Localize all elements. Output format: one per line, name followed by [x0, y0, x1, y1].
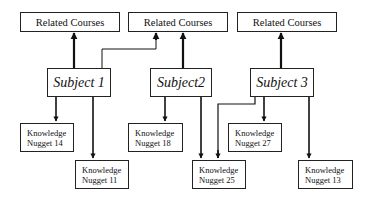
- subject-box-2: Subject2: [150, 68, 212, 97]
- nugget-line1: Knowledge: [199, 165, 238, 175]
- nugget-line2: Nugget 25: [199, 175, 238, 185]
- diagram-canvas: Related Courses Related Courses Related …: [0, 0, 367, 201]
- subject-label: Subject 1: [53, 75, 105, 91]
- related-courses-box-2: Related Courses: [128, 12, 228, 32]
- related-courses-box-1: Related Courses: [20, 12, 120, 32]
- nugget-line2: Nugget 11: [82, 175, 121, 185]
- related-courses-label: Related Courses: [144, 17, 213, 28]
- nugget-line1: Knowledge: [27, 128, 66, 138]
- subject-label: Subject 3: [256, 75, 308, 91]
- knowledge-nugget-14: Knowledge Nugget 14: [20, 123, 74, 152]
- nugget-line1: Knowledge: [82, 165, 121, 175]
- nugget-line1: Knowledge: [135, 128, 174, 138]
- nugget-line1: Knowledge: [305, 165, 344, 175]
- related-courses-box-3: Related Courses: [237, 12, 337, 32]
- knowledge-nugget-11: Knowledge Nugget 11: [75, 160, 129, 189]
- nugget-line2: Nugget 14: [27, 138, 66, 148]
- edge-s1-courses2: [102, 33, 156, 68]
- nugget-line2: Nugget 18: [135, 138, 174, 148]
- knowledge-nugget-25: Knowledge Nugget 25: [192, 160, 246, 189]
- subject-box-1: Subject 1: [47, 68, 111, 97]
- knowledge-nugget-18: Knowledge Nugget 18: [128, 123, 183, 152]
- subject-label: Subject2: [157, 75, 205, 91]
- knowledge-nugget-27: Knowledge Nugget 27: [228, 123, 282, 152]
- nugget-line2: Nugget 13: [305, 175, 344, 185]
- related-courses-label: Related Courses: [253, 17, 322, 28]
- nugget-line1: Knowledge: [235, 128, 274, 138]
- related-courses-label: Related Courses: [36, 17, 105, 28]
- knowledge-nugget-13: Knowledge Nugget 13: [298, 160, 353, 189]
- subject-box-3: Subject 3: [250, 68, 314, 97]
- nugget-line2: Nugget 27: [235, 138, 274, 148]
